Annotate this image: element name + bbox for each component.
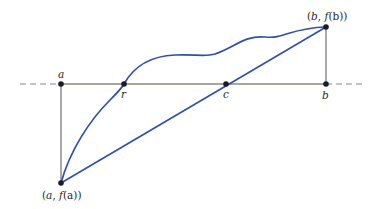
point-r [121,81,127,87]
label-r: r [121,88,127,100]
diagram: a r c b (a, f(a)) (b, f(b)) [0,0,388,209]
point-a-fa [58,180,64,186]
label-a-fa: (a, f(a)) [42,189,82,201]
point-b-fb [323,24,329,30]
point-a [58,81,64,87]
label-b: b [322,89,329,101]
label-b-fb: (b, f(b)) [307,10,347,22]
secant-line [61,27,326,183]
point-b [323,81,329,87]
point-c [223,81,229,87]
label-c: c [223,88,229,100]
label-a: a [58,68,64,80]
